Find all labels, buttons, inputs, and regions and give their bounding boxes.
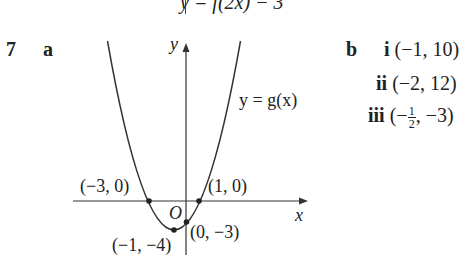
answer-suffix: , −3): [416, 104, 454, 126]
x-axis-arrow-icon: [299, 198, 308, 205]
frac-numerator: 1: [408, 105, 416, 118]
part-b-label: b: [346, 38, 357, 61]
answer-label: i: [384, 38, 390, 60]
point-label: (−3, 0): [80, 176, 129, 197]
answer-value: (−2, 12): [392, 72, 457, 94]
answer-label: ii: [376, 72, 387, 94]
x-axis-label: x: [295, 205, 303, 226]
answer-iii: iii (−12, −3): [368, 104, 454, 130]
point-label: (−1, −4): [112, 235, 171, 256]
point-neg3-0: [146, 198, 152, 204]
point-1-0: [196, 198, 202, 204]
point-label: (0, −3): [190, 222, 239, 243]
answer-i: i (−1, 10): [384, 38, 459, 61]
fraction: 12: [408, 105, 416, 130]
y-axis-arrow-icon: [183, 43, 190, 52]
point-neg1-neg4: [171, 227, 177, 233]
y-axis-label: y: [170, 34, 178, 55]
curve-label: y = g(x): [239, 90, 297, 111]
answer-value: (−1, 10): [395, 38, 460, 60]
answer-prefix: (−: [390, 104, 408, 126]
frac-denominator: 2: [408, 118, 416, 130]
answer-label: iii: [368, 104, 385, 126]
origin-label: O: [169, 203, 182, 224]
parabola-curve: [108, 41, 241, 230]
point-label: (1, 0): [208, 176, 247, 197]
point-0-neg3: [184, 219, 190, 225]
answer-ii: ii (−2, 12): [376, 72, 457, 95]
